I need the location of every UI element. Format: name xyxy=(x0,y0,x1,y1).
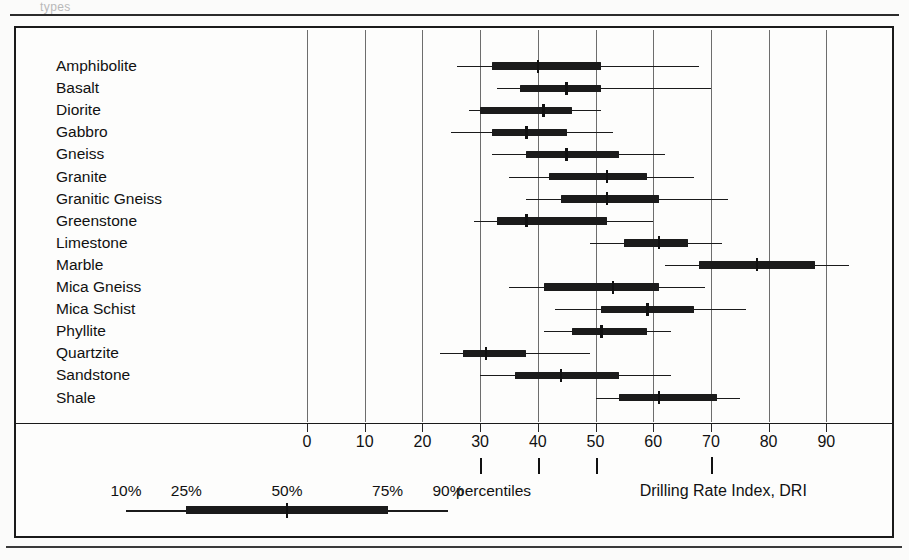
box-median xyxy=(658,236,661,249)
box-median xyxy=(612,281,615,294)
axis-tick-40 xyxy=(538,424,539,432)
category-label: Quartzite xyxy=(56,345,119,360)
axis-tick-label: 50 xyxy=(587,433,605,451)
category-label: Diorite xyxy=(56,102,101,117)
axis-tick-label: 30 xyxy=(471,433,489,451)
box-median xyxy=(542,104,545,117)
box-median xyxy=(606,192,609,205)
axis-tick-90 xyxy=(826,424,827,432)
category-label: Gabbro xyxy=(56,124,108,139)
page-bottom-rule xyxy=(6,546,902,548)
box-interquartile xyxy=(497,217,607,225)
legend-percentile-label: 75% xyxy=(372,482,403,500)
legend-percentile-label: 10% xyxy=(110,482,141,500)
axis-tick-70 xyxy=(711,424,712,432)
axis-tick-label: 60 xyxy=(644,433,662,451)
axis-tick-label: 80 xyxy=(760,433,778,451)
category-label: Greenstone xyxy=(56,213,137,228)
axis-title-pointer xyxy=(711,457,713,474)
box-median xyxy=(606,170,609,183)
plot-panel: AmphiboliteBasaltDioriteGabbroGneissGran… xyxy=(16,28,892,424)
gridline-10 xyxy=(365,30,366,422)
box-interquartile xyxy=(492,129,567,137)
legend-percentile-label: 25% xyxy=(171,482,202,500)
gridline-20 xyxy=(422,30,423,422)
category-label: Amphibolite xyxy=(56,58,137,73)
box-interquartile xyxy=(520,85,601,93)
category-label: Limestone xyxy=(56,235,128,250)
axis-tick-label: 10 xyxy=(356,433,374,451)
category-label: Sandstone xyxy=(56,367,130,382)
box-median xyxy=(525,214,528,227)
box-interquartile xyxy=(480,107,572,115)
axis-tick-30 xyxy=(480,424,481,432)
legend-percentile-label: 90% xyxy=(432,482,463,500)
box-median xyxy=(560,369,563,382)
box-interquartile xyxy=(624,239,687,247)
category-label: Mica Gneiss xyxy=(56,279,141,294)
category-label: Phyllite xyxy=(56,323,106,338)
box-interquartile xyxy=(549,173,647,181)
legend-median xyxy=(286,503,289,518)
axis-tick-20 xyxy=(422,424,423,432)
axis-tick-label: 20 xyxy=(413,433,431,451)
percentile-pointer-50 xyxy=(596,458,598,474)
chart-frame: AmphiboliteBasaltDioriteGabbroGneissGran… xyxy=(14,26,894,538)
legend-percentile-label: 50% xyxy=(271,482,302,500)
box-interquartile xyxy=(619,394,717,402)
page-top-ghost-text: types xyxy=(40,0,71,14)
axis-tick-10 xyxy=(365,424,366,432)
box-interquartile xyxy=(561,195,659,203)
axis-tick-50 xyxy=(596,424,597,432)
x-axis-title: Drilling Rate Index, DRI xyxy=(640,482,807,500)
page-top-rule xyxy=(10,14,899,16)
box-median xyxy=(565,82,568,95)
box-interquartile xyxy=(463,350,526,358)
box-median xyxy=(565,148,568,161)
percentile-pointer-30 xyxy=(480,458,482,474)
box-median xyxy=(658,391,661,404)
box-interquartile xyxy=(492,62,602,70)
gridline-90 xyxy=(826,30,827,422)
category-label: Mica Schist xyxy=(56,301,135,316)
box-median xyxy=(646,303,649,316)
axis-tick-label: 0 xyxy=(303,433,312,451)
axis-tick-60 xyxy=(653,424,654,432)
category-label: Gneiss xyxy=(56,146,104,161)
percentiles-label: percentiles xyxy=(456,482,531,500)
axis-tick-0 xyxy=(307,424,308,432)
box-median xyxy=(537,60,540,73)
category-label: Basalt xyxy=(56,80,99,95)
percentile-pointer-40 xyxy=(538,458,540,474)
category-label: Granitic Gneiss xyxy=(56,191,162,206)
category-label: Marble xyxy=(56,257,103,272)
axis-tick-label: 90 xyxy=(817,433,835,451)
box-interquartile xyxy=(515,372,619,380)
box-interquartile xyxy=(572,328,647,336)
axis-tick-label: 70 xyxy=(702,433,720,451)
category-label: Shale xyxy=(56,390,96,405)
category-label: Granite xyxy=(56,169,107,184)
box-interquartile xyxy=(526,151,618,159)
box-median xyxy=(485,347,488,360)
gridline-30 xyxy=(480,30,481,422)
gridline-80 xyxy=(769,30,770,422)
box-interquartile xyxy=(544,283,659,291)
box-median xyxy=(756,258,759,271)
axis-tick-label: 40 xyxy=(529,433,547,451)
box-median xyxy=(525,126,528,139)
axis-band: percentiles Drilling Rate Index, DRI 010… xyxy=(16,424,892,538)
box-median xyxy=(600,325,603,338)
axis-tick-80 xyxy=(769,424,770,432)
gridline-70 xyxy=(711,30,712,422)
gridline-0 xyxy=(307,30,308,422)
figure-root: types AmphiboliteBasaltDioriteGabbroGnei… xyxy=(0,0,909,560)
